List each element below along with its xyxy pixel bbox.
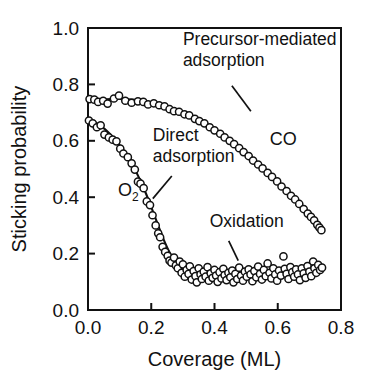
leader-line-oxidation <box>229 241 238 261</box>
x-axis-title: Coverage (ML) <box>148 348 281 370</box>
x-tick-label-0.0: 0.0 <box>75 317 101 338</box>
data-point <box>131 166 138 173</box>
data-point <box>280 253 287 260</box>
y-tick-label-0.8: 0.8 <box>53 74 79 95</box>
data-point <box>104 100 111 107</box>
y-tick-label-0.4: 0.4 <box>53 187 80 208</box>
annotation-direct-adsorption: Direct <box>153 125 199 145</box>
data-point <box>113 138 120 145</box>
o2-label-subscript: 2 <box>132 190 139 204</box>
x-tick-label-0.6: 0.6 <box>265 317 291 338</box>
x-tick-label-0.4: 0.4 <box>201 317 228 338</box>
data-point <box>115 92 122 99</box>
annotation-direct-adsorption-line2: adsorption <box>153 146 235 166</box>
leader-line-direct-adsorption <box>153 176 172 199</box>
y-tick-label-0.6: 0.6 <box>53 130 79 151</box>
x-tick-label-0.2: 0.2 <box>138 317 164 338</box>
sticking-probability-chart: 0.00.20.40.60.81.00.00.20.40.60.8Coverag… <box>0 0 366 380</box>
chart-text-labels: 0.00.20.40.60.81.00.00.20.40.60.8Coverag… <box>8 18 354 371</box>
annotation-precursor-mediated-adsorption: Precursor-mediated <box>183 29 337 49</box>
data-point <box>152 222 159 229</box>
data-point <box>157 234 164 241</box>
annotation-precursor-mediated-adsorption-line2: adsorption <box>183 50 265 70</box>
data-point <box>318 264 325 271</box>
data-point <box>318 227 325 234</box>
data-point <box>149 212 156 219</box>
data-point <box>97 122 104 129</box>
leader-line-precursor-mediated-adsorption <box>232 86 251 111</box>
co-label: CO <box>270 129 297 149</box>
annotation-oxidation: Oxidation <box>210 211 284 231</box>
data-point <box>146 202 153 209</box>
figure-container: 0.00.20.40.60.81.00.00.20.40.60.8Coverag… <box>0 0 366 380</box>
y-tick-label-0.2: 0.2 <box>53 243 79 264</box>
y-axis-title: Sticking probability <box>8 86 30 253</box>
y-tick-label-1.0: 1.0 <box>53 18 79 39</box>
x-tick-label-0.8: 0.8 <box>328 317 354 338</box>
data-point <box>140 185 147 192</box>
